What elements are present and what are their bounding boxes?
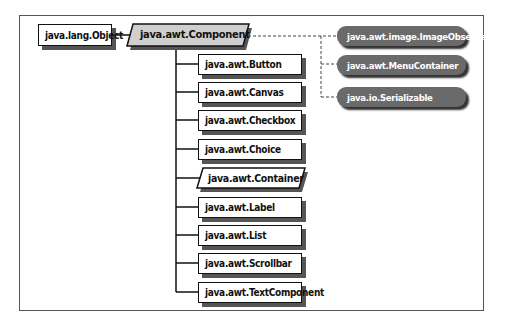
- interface-label: java.awt.image.ImageObserver: [347, 31, 489, 42]
- class-label: java.awt.Choice: [205, 144, 281, 155]
- interface-label: java.awt.MenuContainer: [347, 60, 458, 71]
- class-label: java.awt.TextComponent: [205, 287, 324, 298]
- class-label-component: java.awt.Component: [140, 28, 250, 41]
- interface-imageobserver: java.awt.image.ImageObserver: [337, 26, 466, 46]
- class-box-canvas: java.awt.Canvas: [198, 82, 302, 103]
- class-label: java.lang.Object: [45, 30, 123, 41]
- class-box-checkbox: java.awt.Checkbox: [198, 110, 302, 131]
- class-label-container: java.awt.Container: [208, 172, 304, 184]
- class-label: java.awt.Checkbox: [205, 115, 295, 126]
- class-box-choice: java.awt.Choice: [198, 139, 302, 160]
- class-box-button: java.awt.Button: [198, 54, 302, 75]
- class-label: java.awt.Scrollbar: [205, 258, 292, 269]
- class-label: java.awt.Label: [205, 202, 275, 213]
- class-box-scrollbar: java.awt.Scrollbar: [198, 253, 302, 274]
- connector-lines: [0, 0, 506, 328]
- class-box-textcomponent: java.awt.TextComponent: [198, 282, 302, 303]
- class-label: java.awt.Canvas: [205, 87, 283, 98]
- class-label: java.awt.List: [205, 230, 266, 241]
- interface-label: java.io.Serializable: [347, 92, 433, 103]
- class-box-object: java.lang.Object: [38, 24, 112, 46]
- interface-menucontainer: java.awt.MenuContainer: [337, 55, 466, 75]
- interface-serializable: java.io.Serializable: [337, 87, 466, 107]
- class-label: java.awt.Button: [205, 59, 282, 70]
- class-box-list: java.awt.List: [198, 225, 302, 246]
- class-box-label: java.awt.Label: [198, 197, 302, 218]
